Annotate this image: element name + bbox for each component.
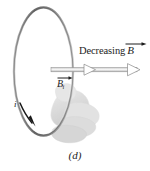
decreasing-field-label: DecreasingB [79, 45, 134, 57]
field-symbol-b: B [127, 44, 134, 56]
hand-illustration [51, 84, 99, 143]
vector-b-group: B [125, 45, 134, 57]
magnetic-field-arrow [51, 64, 140, 76]
arrowhead-tip-icon [128, 64, 141, 76]
induced-field-label: Bi [57, 79, 64, 91]
figure-canvas [0, 0, 150, 171]
physics-figure: DecreasingB Bi i (d) [0, 0, 150, 171]
current-label: i [14, 100, 17, 109]
induced-field-symbol-b: B [57, 78, 63, 89]
figure-caption: (d) [0, 150, 150, 161]
decreasing-field-text: Decreasing [79, 45, 125, 56]
vector-bi-group: B [57, 79, 63, 90]
arrowhead-mid-icon [84, 64, 96, 75]
